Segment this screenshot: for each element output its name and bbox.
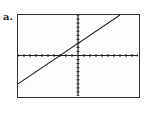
data-line bbox=[18, 15, 120, 84]
figure-label: a. bbox=[3, 11, 13, 22]
graph-plot bbox=[18, 15, 138, 96]
calculator-screen bbox=[17, 14, 140, 98]
